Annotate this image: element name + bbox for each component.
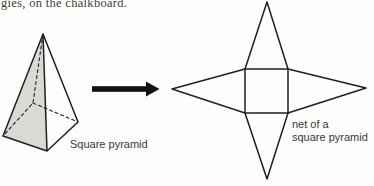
arrow-head [146, 82, 160, 97]
net-left-triangle [172, 69, 245, 113]
net-top-triangle [245, 2, 288, 69]
net-caption-line2: square pyramid [292, 131, 368, 144]
arrow-shaft [92, 86, 147, 92]
net-bottom-triangle [245, 113, 288, 179]
diagram-canvas [0, 0, 374, 186]
net-caption: net of a square pyramid [292, 118, 368, 144]
geometry-worksheet-diagram: gies, on the chalkboard. Square pyramid … [0, 0, 374, 186]
net-center-square [245, 69, 288, 113]
right-arrow-icon [92, 82, 160, 97]
square-pyramid-net-figure [172, 2, 366, 179]
net-right-triangle [288, 69, 366, 113]
pyramid-caption: Square pyramid [70, 138, 148, 151]
net-caption-line1: net of a [292, 118, 368, 131]
square-pyramid-figure [3, 34, 78, 151]
